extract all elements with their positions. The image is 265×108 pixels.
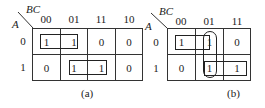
col-label: 11: [87, 14, 115, 25]
row-variable-label: A: [12, 19, 19, 30]
kmap-cell: 0: [33, 55, 61, 80]
kmap-cell: 0: [116, 29, 142, 55]
group-loop-row1: [69, 60, 107, 75]
col-label: 00: [32, 14, 60, 25]
col-label: 10: [115, 14, 143, 25]
col-label: 11: [223, 16, 251, 27]
caption-a: (a): [81, 88, 93, 99]
karnaugh-map-a: BC A 00 01 11 10 0 1 1 1 0 0 0 1 1 0 (a): [0, 0, 145, 108]
row-label: 0: [18, 36, 28, 47]
col-label: 01: [195, 16, 223, 27]
karnaugh-map-b: BC A 00 01 11 0 1 1 1 0 0 1 1 (b): [145, 0, 265, 108]
kmap-cell: 0: [116, 55, 142, 80]
col-label: 01: [60, 14, 88, 25]
kmap-cell: 0: [168, 55, 196, 80]
row-label: 1: [151, 63, 161, 74]
kmap-cell: 0: [88, 29, 116, 55]
group-loop-row0: [40, 34, 78, 49]
caption-b: (b): [227, 88, 240, 99]
row-label: 1: [18, 62, 28, 73]
row-label: 0: [151, 37, 161, 48]
row-variable-label: A: [145, 21, 152, 32]
group-loop-column01: [203, 31, 217, 78]
kmap-cell: 0: [224, 29, 250, 55]
col-label: 00: [167, 16, 195, 27]
